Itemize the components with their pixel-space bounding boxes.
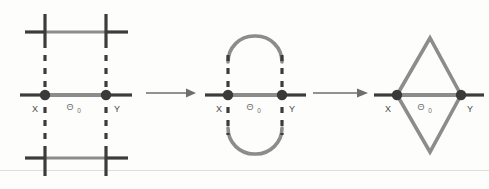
panel3-node-x bbox=[392, 90, 402, 100]
transformation-diagram: X Y Θ 0 X Y Θ bbox=[0, 0, 489, 189]
panel2-node-y bbox=[277, 90, 287, 100]
panel3-label-theta: Θ bbox=[417, 102, 424, 112]
panel1-label-y: Y bbox=[114, 104, 120, 114]
panel1-node-y bbox=[101, 90, 111, 100]
panel2-node-x bbox=[223, 90, 233, 100]
panel1-label-theta: Θ bbox=[66, 102, 73, 112]
panel2-label-theta-subscript: 0 bbox=[257, 107, 261, 114]
panel2-label-theta: Θ bbox=[246, 102, 253, 112]
panel3-label-theta-subscript: 0 bbox=[428, 107, 432, 114]
panel2-label-x: X bbox=[216, 104, 222, 114]
panel1-label-theta-subscript: 0 bbox=[77, 107, 81, 114]
panel3-label-x: X bbox=[385, 104, 391, 114]
panel3-node-y bbox=[456, 90, 466, 100]
panel3-label-y: Y bbox=[467, 104, 473, 114]
panel2-label-y: Y bbox=[289, 104, 295, 114]
panel1-node-x bbox=[40, 90, 50, 100]
figure-root: X Y Θ 0 X Y Θ bbox=[0, 0, 489, 189]
panel1-label-x: X bbox=[32, 104, 38, 114]
